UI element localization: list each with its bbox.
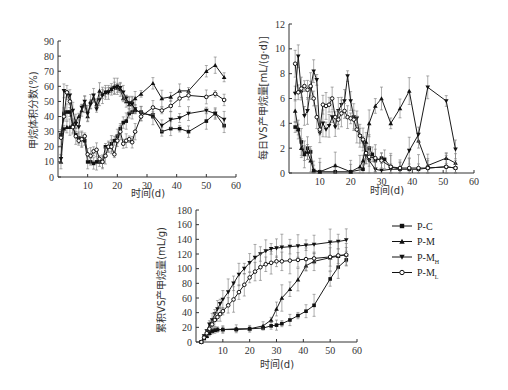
circle-open-marker-icon [110,145,114,149]
circle-open-marker-icon [101,160,105,164]
circle-open-marker-icon [327,103,331,107]
y-tick-label: 140 [177,234,192,245]
circle-open-marker-icon [83,134,87,138]
circle-open-marker-icon [169,104,173,108]
y-tick-label: 10 [275,43,285,54]
circle-open-marker-icon [315,115,319,119]
circle-open-marker-icon [355,128,359,132]
square-marker-icon [124,119,128,123]
legend-item: P-ML [392,267,439,280]
circle-open-marker-icon [133,130,137,134]
circle-open-marker-icon [222,98,226,102]
x-tick-label: 30 [272,345,282,356]
triangle-up-marker-icon [274,307,279,311]
x-tick-label: 20 [245,345,255,356]
circle-open-marker-icon [304,257,308,261]
triangle-down-marker-icon [160,124,165,128]
x-tick-label: 20 [346,176,356,187]
circle-open-marker-icon [296,90,300,94]
circle-open-marker-icon [280,260,284,264]
circle-open-marker-icon [151,106,155,110]
triangle-down-marker-icon [263,249,268,253]
y-tick-label: 40 [44,111,54,122]
circle-open-marker-icon [444,165,448,169]
triangle-down-marker-icon [85,112,90,116]
triangle-down-marker-icon [407,149,412,153]
triangle-down-marker-icon [348,99,353,103]
triangle-up-marker-icon [407,89,412,93]
legend-label: P-C [417,221,433,232]
y-tick-label: 12 [275,19,285,30]
square-marker-icon [275,323,279,327]
x-tick-label: 20 [112,180,122,191]
triangle-down-marker-icon [59,157,64,161]
circle-open-marker-icon [226,304,230,308]
legend-label: P-M [417,236,435,247]
y-tick-label: 30 [44,126,54,137]
y-tick-label: 80 [182,278,192,289]
legend-label: P-ML [417,267,439,280]
square-marker-icon [269,324,273,328]
triangle-down-marker-icon [186,112,191,116]
triangle-down-marker-icon [296,54,301,58]
triangle-down-marker-icon [345,74,350,78]
circle-open-marker-icon [89,154,93,158]
chart1-ylabel: 甲烷体积分数(%) [27,71,39,148]
y-tick-label: 20 [44,141,54,152]
circle-open-marker-icon [352,118,356,122]
square-marker-icon [205,119,209,123]
circle-open-marker-icon [293,62,297,66]
circle-open-marker-icon [358,134,362,138]
legend: P-CP-MP-MHP-ML [392,221,440,281]
square-marker-icon [288,318,292,322]
circle-open-marker-icon [343,109,347,113]
y-tick-label: 60 [44,81,54,92]
y-tick-label: 40 [182,307,192,318]
x-tick-label: 60 [352,345,362,356]
circle-open-marker-icon [116,139,120,143]
circle-open-marker-icon [221,309,225,313]
circle-open-marker-icon [337,118,341,122]
circle-open-marker-icon [208,327,212,331]
x-tick-label: 50 [325,345,335,356]
circle-open-marker-icon [205,331,209,335]
circle-open-marker-icon [374,156,378,160]
triangle-up-marker-icon [398,106,403,110]
square-marker-icon [296,314,300,318]
circle-open-marker-icon [288,259,292,263]
square-marker-icon [187,130,191,134]
circle-open-marker-icon [318,128,322,132]
y-tick-label: 2 [280,143,285,154]
circle-open-marker-icon [364,151,368,155]
y-tick-label: 50 [44,96,54,107]
legend-label: P-MH [417,252,440,265]
y-tick-label: 20 [182,322,192,333]
square-marker-icon [312,304,316,308]
circle-open-marker-icon [130,140,134,144]
circle-open-marker-icon [113,153,117,157]
triangle-up-marker-icon [213,63,218,67]
triangle-up-marker-icon [367,121,372,125]
circle-open-marker-icon [202,336,206,340]
y-tick-label: 100 [177,263,192,274]
circle-open-marker-icon [59,136,63,140]
circle-open-marker-icon [62,115,66,119]
x-tick-label: 60 [469,176,479,187]
x-tick-label: 30 [377,176,387,187]
square-marker-icon [280,322,284,326]
triangle-down-marker-icon [453,148,458,152]
circle-open-marker-icon [119,130,123,134]
circle-open-marker-icon [210,323,214,327]
chart3-xlabel: 时间(d) [260,358,294,370]
circle-open-marker-icon [98,157,102,161]
y-tick-label: 120 [177,249,192,260]
circle-open-marker-icon [361,138,365,142]
x-tick-label: 30 [142,180,152,191]
triangle-up-marker-icon [296,277,301,281]
triangle-up-marker-icon [269,318,274,322]
y-tick-label: 10 [44,156,54,167]
triangle-down-marker-icon [218,302,223,306]
circle-open-marker-icon [65,91,69,95]
circle-open-marker-icon [417,166,421,170]
circle-open-marker-icon [426,166,430,170]
